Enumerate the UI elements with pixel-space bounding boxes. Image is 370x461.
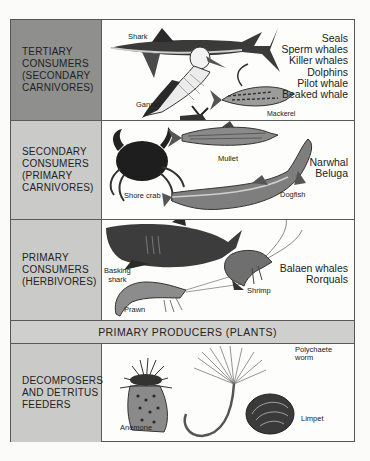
listed-organisms-secondary: Narwhal Beluga [309,157,348,179]
caption-basking-shark: Basking shark [104,266,131,284]
row-primary-consumers: PRIMARY CONSUMERS (HERBIVORES) [11,220,354,321]
caption-dogfish: Dogfish [280,190,305,199]
content-cell-decomposers: Anemone Polychaete worm Limpet [102,344,354,442]
listed-organisms-primary: Balaen whales Rorquals [280,263,348,285]
caption-anemone: Anemone [120,423,152,432]
listed-organism: Rorquals [280,274,348,285]
label-cell-secondary: SECONDARY CONSUMERS (PRIMARY CARNIVORES) [11,121,102,219]
row-tertiary-consumers: TERTIARY CONSUMERS (SECONDARY CARNIVORES… [11,20,354,121]
caption-shrimp: Shrimp [247,286,271,295]
caption-mackerel: Mackerel [267,110,295,117]
anemone-illustration [120,358,172,432]
row-label: DECOMPOSERS AND DETRITUS FEEDERS [22,375,103,411]
listed-organisms-tertiary: Seals Sperm whales Killer whales Dolphin… [281,33,348,100]
row-label: TERTIARY CONSUMERS (SECONDARY CARNIVORES… [22,46,94,94]
row-label: PRIMARY CONSUMERS (HERBIVORES) [22,252,97,288]
label-cell-primary: PRIMARY CONSUMERS (HERBIVORES) [11,220,102,320]
row-primary-producers: PRIMARY PRODUCERS (PLANTS) [11,321,354,344]
label-cell-tertiary: TERTIARY CONSUMERS (SECONDARY CARNIVORES… [11,20,102,120]
listed-organism: Beluga [309,168,348,179]
content-cell-secondary: Shore crab Mullet Dogfish Narwhal Beluga [102,121,354,219]
content-cell-tertiary: Shark Gannet Mackerel Seals Sperm whales… [102,20,354,120]
caption-prawn: Prawn [124,305,145,314]
listed-organism: Beaked whale [281,89,348,100]
mullet-illustration [168,121,278,147]
primary-producers-banner: PRIMARY PRODUCERS (PLANTS) [11,321,354,343]
limpet-illustration [246,394,294,434]
caption-mullet: Mullet [218,154,238,163]
row-decomposers: DECOMPOSERS AND DETRITUS FEEDERS [11,344,354,442]
caption-polychaete-worm: Polychaete worm [295,346,332,362]
label-cell-decomposers: DECOMPOSERS AND DETRITUS FEEDERS [11,344,102,442]
small-fish-illustration [180,114,206,120]
caption-shark: Shark [128,32,148,41]
caption-gannet: Gannet [136,100,161,109]
caption-shore-crab: Shore crab [124,191,161,200]
listed-organism: Killer whales [281,55,348,66]
row-label: SECONDARY CONSUMERS (PRIMARY CARNIVORES) [22,146,94,194]
food-web-table: TERTIARY CONSUMERS (SECONDARY CARNIVORES… [10,19,355,442]
caption-limpet: Limpet [301,414,324,423]
content-cell-primary: Basking shark Prawn Shrimp Balaen whales… [102,220,354,320]
row-secondary-consumers: SECONDARY CONSUMERS (PRIMARY CARNIVORES) [11,121,354,220]
basking-shark-illustration [106,220,242,270]
